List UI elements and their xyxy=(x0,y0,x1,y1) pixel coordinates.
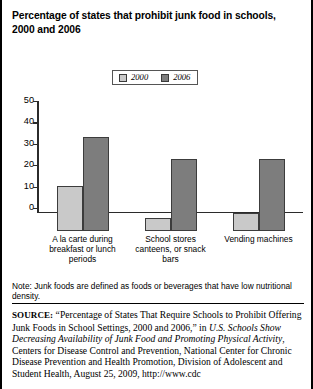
legend-item-2000: 2000 xyxy=(119,73,148,82)
divider xyxy=(12,303,304,304)
category-label: School stores canteens, or snack bars xyxy=(127,234,215,265)
chart-legend: 2000 2006 xyxy=(112,70,198,85)
bar-group-school-stores xyxy=(127,119,215,231)
x-axis-category-labels: A la carte during breakfast or lunch per… xyxy=(39,234,303,265)
bar-2006 xyxy=(171,159,197,231)
y-tick-mark xyxy=(33,208,38,209)
title-block: Percentage of states that prohibit junk … xyxy=(2,0,311,36)
bars-container xyxy=(39,119,303,231)
legend-label: 2006 xyxy=(173,73,190,82)
legend-swatch-icon xyxy=(161,74,169,82)
y-tick-mark xyxy=(33,122,38,123)
bar-2000 xyxy=(233,213,259,231)
y-tick-mark xyxy=(33,165,38,166)
bar-2006 xyxy=(259,159,285,231)
figure-panel: Percentage of states that prohibit junk … xyxy=(0,0,313,389)
legend-label: 2000 xyxy=(131,73,148,82)
bar-group-vending-machines xyxy=(215,119,303,231)
y-axis-labels: 50 40 30 20 10 0 xyxy=(12,96,34,218)
category-label: A la carte during breakfast or lunch per… xyxy=(39,234,127,265)
bar-2006 xyxy=(83,137,109,231)
chart-note: Note: Junk foods are defined as foods or… xyxy=(12,281,304,302)
y-tick-mark xyxy=(33,144,38,145)
y-tick-mark xyxy=(33,101,38,102)
bar-2000 xyxy=(57,186,83,231)
y-tick-mark xyxy=(33,187,38,188)
source-label: SOURCE: xyxy=(12,310,53,320)
legend-item-2006: 2006 xyxy=(161,73,190,82)
page-title: Percentage of states that prohibit junk … xyxy=(12,9,299,36)
source-citation: SOURCE: “Percentage of States That Requi… xyxy=(12,309,306,380)
bar-group-a-la-carte xyxy=(39,119,127,231)
plot-area: 50 40 30 20 10 0 xyxy=(2,96,313,236)
bar-2000 xyxy=(145,218,171,231)
category-label: Vending machines xyxy=(215,234,303,265)
legend-swatch-icon xyxy=(119,74,127,82)
